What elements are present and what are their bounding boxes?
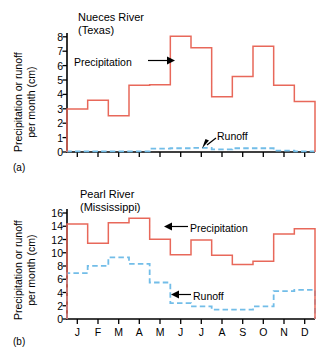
chart-panel-nueces-river: Precipitation or runoff per month (cm) N… xyxy=(0,0,334,180)
panel-a-precipitation-series xyxy=(67,36,315,152)
panel-b-precipitation-arrow-icon xyxy=(164,223,188,231)
panel-b-runoff-series xyxy=(67,257,315,319)
panel-b-runoff-arrow-icon xyxy=(171,291,191,299)
panel-b-plot-svg xyxy=(0,180,334,345)
panel-a-runoff-arrow-icon xyxy=(202,138,216,149)
panel-a-plot-svg xyxy=(0,0,334,180)
panel-a-axis-lines xyxy=(67,33,315,152)
chart-panel-pearl-river: Precipitation or runoff per month (cm) P… xyxy=(0,180,334,345)
